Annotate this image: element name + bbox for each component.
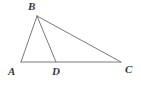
vertex-label-c: C <box>125 64 132 75</box>
segment-BD <box>37 16 56 62</box>
vertex-label-a: A <box>8 66 15 77</box>
triangle-diagram-canvas <box>0 0 141 87</box>
segments-group <box>21 16 121 62</box>
vertex-label-b: B <box>28 1 35 12</box>
vertex-label-d: D <box>52 66 60 77</box>
segment-BC <box>37 16 121 62</box>
geometry-figure: B A D C <box>0 0 141 87</box>
segment-AB <box>21 16 37 62</box>
